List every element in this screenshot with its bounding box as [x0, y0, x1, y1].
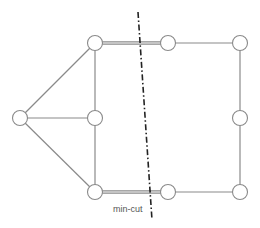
min-cut-label: min-cut: [113, 204, 143, 214]
min-cut-dashed-line: [138, 12, 152, 220]
node-bottom-left-hub: [88, 185, 103, 200]
node-left: [13, 111, 28, 126]
node-top-left-hub: [88, 36, 103, 51]
node-bottom-right: [233, 185, 248, 200]
edge: [20, 43, 95, 118]
node-top-right: [233, 36, 248, 51]
node-top-mid-right: [161, 36, 176, 51]
edges: [20, 42, 240, 193]
graph-diagram: min-cut: [0, 0, 260, 228]
edge: [20, 118, 95, 192]
min-cut-line: [138, 12, 152, 220]
node-middle: [88, 111, 103, 126]
node-bottom-mid-right: [161, 185, 176, 200]
node-right-middle: [233, 111, 248, 126]
